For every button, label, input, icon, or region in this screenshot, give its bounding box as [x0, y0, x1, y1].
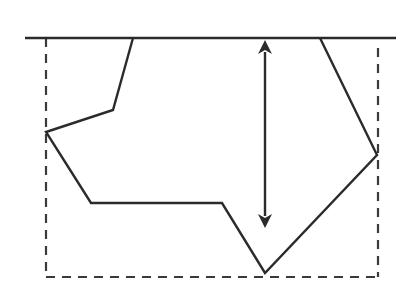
diagram-canvas — [0, 0, 418, 307]
background — [0, 0, 418, 307]
